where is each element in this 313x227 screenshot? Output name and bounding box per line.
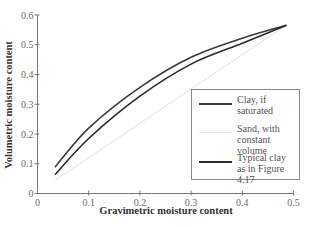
legend-swatch-typical-clay [199, 161, 232, 163]
legend-swatch-sand [199, 132, 232, 133]
x-tick-label: 0.4 [236, 197, 249, 208]
y-tick-label: 0.1 [21, 158, 34, 169]
x-tick-label: 0.1 [82, 197, 95, 208]
legend-label: Clay, ifsaturated [237, 94, 299, 116]
y-ticks: 00.10.20.30.40.50.6 [21, 10, 40, 200]
y-tick-label: 0.6 [21, 10, 34, 21]
legend: Clay, ifsaturated Sand, withconstant vol… [191, 89, 300, 180]
y-tick-label: 0.4 [21, 69, 34, 80]
legend-swatch-clay-saturated [199, 103, 232, 105]
legend-label: Typical clayas in Figure 4.17 [237, 152, 299, 185]
x-tick-label: 0.5 [287, 197, 300, 208]
y-tick-label: 0.2 [21, 129, 34, 140]
x-tick-label: 0 [35, 197, 40, 208]
legend-item-typical-clay: Typical clayas in Figure 4.17 [192, 151, 299, 179]
x-axis-title: Gravimetric moisture content [99, 205, 233, 216]
legend-item-sand: Sand, withconstant volume [192, 122, 299, 150]
legend-item-clay-saturated: Clay, ifsaturated [192, 93, 299, 121]
y-tick-label: 0.5 [21, 39, 34, 50]
y-tick-label: 0 [29, 188, 34, 199]
y-tick-label: 0.3 [21, 99, 34, 110]
y-axis-title: Volumetric moisture content [3, 41, 14, 169]
